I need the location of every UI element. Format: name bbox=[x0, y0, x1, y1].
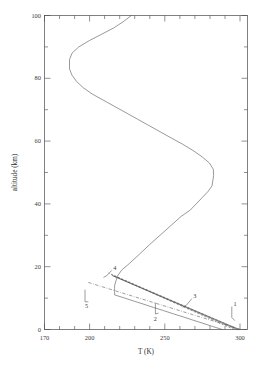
curve-label-2-group: 2 bbox=[154, 303, 158, 322]
lapse-line-5 bbox=[88, 282, 241, 329]
x-ticklabel-170: 170 bbox=[40, 334, 50, 341]
y-ticklabel-80: 80 bbox=[35, 74, 41, 81]
y-axis-title: altitude (km) bbox=[11, 153, 19, 191]
chart-svg: 0 20 40 60 80 100 170 200 250 300 T (K) … bbox=[0, 0, 263, 366]
x-ticklabel-200: 200 bbox=[85, 334, 95, 341]
y-axis-right-ticks bbox=[242, 16, 248, 330]
y-ticklabel-60: 60 bbox=[35, 137, 41, 144]
y-ticklabel-40: 40 bbox=[35, 200, 41, 207]
y-axis-minor-ticks bbox=[45, 47, 49, 298]
standard-atmosphere-curve bbox=[70, 16, 223, 330]
curve-label-3-group: 3 bbox=[183, 292, 196, 307]
curve-label-5: 5 bbox=[85, 302, 88, 309]
atmospheric-profile-figure: 0 20 40 60 80 100 170 200 250 300 T (K) … bbox=[0, 0, 263, 366]
x-axis-minor-ticks bbox=[60, 326, 226, 330]
x-axis-major-ticks bbox=[45, 324, 241, 330]
curve-label-5-group: 5 bbox=[85, 290, 88, 309]
curve-label-1: 1 bbox=[234, 300, 237, 307]
curve-label-1-group: 1 bbox=[232, 300, 237, 320]
y-ticklabel-0: 0 bbox=[38, 326, 41, 333]
lapse-line-2 bbox=[111, 275, 234, 330]
curve-label-4-group: 4 bbox=[104, 264, 116, 277]
curve-label-4: 4 bbox=[113, 264, 116, 271]
x-axis-top-ticks bbox=[45, 16, 241, 22]
curve-label-2: 2 bbox=[154, 315, 157, 322]
plot-frame bbox=[45, 16, 248, 330]
curve-label-3: 3 bbox=[193, 292, 196, 299]
x-axis-title: T (K) bbox=[138, 348, 155, 356]
x-ticklabel-250: 250 bbox=[160, 334, 170, 341]
y-ticklabel-20: 20 bbox=[35, 263, 41, 270]
x-ticklabel-300: 300 bbox=[235, 334, 245, 341]
y-ticklabel-100: 100 bbox=[31, 12, 41, 19]
